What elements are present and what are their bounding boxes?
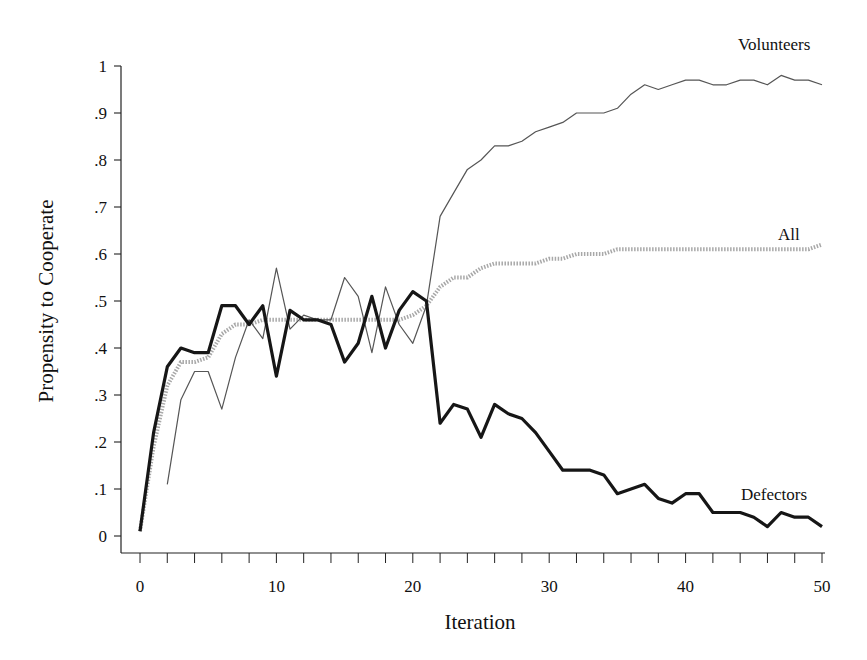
series-layer (140, 75, 822, 531)
series-defectors-line (140, 292, 822, 532)
y-tick-label: .6 (94, 245, 107, 264)
x-tick-label: 50 (814, 577, 831, 596)
y-tick-label: .8 (94, 151, 107, 170)
all-label: All (778, 225, 800, 244)
y-tick-label: .5 (94, 292, 107, 311)
x-tick-label: 0 (136, 577, 145, 596)
x-tick-label: 10 (268, 577, 285, 596)
y-tick-label: .1 (94, 480, 107, 499)
y-axis-ticks: 0.1.2.3.4.5.6.7.8.91 (94, 57, 121, 546)
line-chart: 0.1.2.3.4.5.6.7.8.91 01020304050 Volunte… (0, 0, 867, 660)
defectors-label: Defectors (741, 485, 807, 504)
y-tick-label: .7 (94, 198, 107, 217)
y-tick-label: 0 (99, 527, 108, 546)
volunteers-label: Volunteers (738, 35, 810, 54)
y-axis-title: Propensity to Cooperate (34, 200, 58, 403)
y-tick-label: .3 (94, 386, 107, 405)
y-tick-label: .2 (94, 433, 107, 452)
series-all-line (140, 245, 822, 532)
x-axis-title: Iteration (444, 610, 516, 634)
x-tick-label: 40 (677, 577, 694, 596)
y-tick-label: 1 (99, 57, 108, 76)
y-tick-label: .4 (94, 339, 107, 358)
x-tick-label: 20 (404, 577, 421, 596)
x-axis-ticks: 01020304050 (136, 553, 831, 596)
x-tick-label: 30 (541, 577, 558, 596)
y-tick-label: .9 (94, 104, 107, 123)
series-volunteers-line (167, 75, 822, 484)
axes: 0.1.2.3.4.5.6.7.8.91 01020304050 (94, 57, 830, 596)
